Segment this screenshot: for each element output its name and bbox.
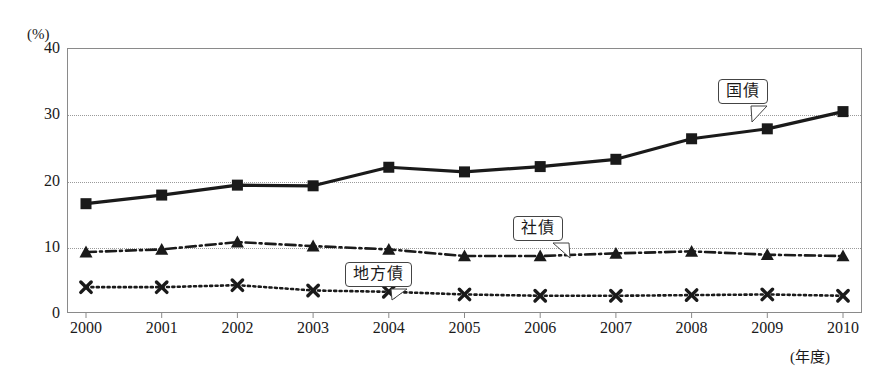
gridline [68,248,861,249]
x-axis-tick-label: 2004 [354,320,424,336]
callout-chihou: 地方債 [345,262,412,287]
x-axis-tick-label: 2008 [657,320,727,336]
gridline [68,115,861,116]
x-axis-tick-label: 2002 [202,320,272,336]
y-axis-tick-label: 10 [22,239,60,255]
callout-kokusai: 国債 [718,79,768,104]
page-title [0,0,879,1]
y-axis-tick-label: 0 [22,305,60,321]
callout-shasai: 社債 [513,216,563,241]
x-axis-tick-label: 2006 [505,320,575,336]
x-axis-tick-label: 2010 [808,320,878,336]
x-axis-tick-label: 2003 [278,320,348,336]
y-axis-tick-label: 40 [22,40,60,56]
x-axis-tick-label: 2009 [732,320,802,336]
y-axis-tick-label: 20 [22,173,60,189]
x-axis-tick-label: 2005 [430,320,500,336]
x-axis-unit-label: (年度) [790,345,830,366]
y-axis-tick-label: 30 [22,106,60,122]
x-axis-tick-label: 2001 [127,320,197,336]
chart-page: (%) 国債 社債 地方債 (年度) 010203040200020012002… [0,0,879,382]
x-axis-tick-label: 2007 [581,320,651,336]
x-axis-tick-label: 2000 [51,320,121,336]
gridline [68,182,861,183]
